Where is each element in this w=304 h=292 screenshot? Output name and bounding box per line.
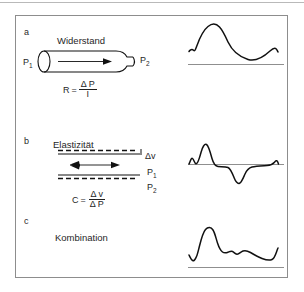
label-p2-panel-b: P2 (147, 182, 157, 194)
formula-c-eq: = (81, 195, 86, 205)
top-rule (0, 2, 304, 3)
figure-root: a b c Widerstand Elastizität Kombination… (0, 0, 304, 292)
caption-elastizitaet: Elastizität (53, 139, 94, 150)
formula-r-lhs: R (63, 85, 70, 95)
formula-r-denominator: İ (85, 90, 92, 99)
panel-letter-a: a (24, 27, 29, 37)
formula-c-fraction: Δ v Δ P (88, 190, 106, 210)
label-delta-v: Δv (145, 151, 156, 161)
formula-resistance: R = Δ P İ (63, 80, 97, 100)
label-p2-panel-a: P2 (140, 55, 150, 67)
label-p2-sub: 2 (146, 60, 150, 67)
label-p1-panel-b: P1 (147, 167, 157, 179)
label-p1b-sub: 1 (153, 172, 157, 179)
formula-r-fraction: Δ P İ (79, 80, 97, 100)
formula-compliance: C = Δ v Δ P (72, 190, 106, 210)
formula-c-denominator: Δ P (88, 200, 106, 209)
label-p1-sub: 1 (29, 62, 33, 69)
panel-letter-c: c (24, 216, 29, 226)
formula-r-eq: = (72, 85, 77, 95)
panel-letter-b: b (24, 136, 29, 146)
label-p1-panel-a: P1 (23, 57, 33, 69)
label-p2b-sub: 2 (153, 187, 157, 194)
caption-kombination: Kombination (55, 232, 108, 243)
caption-widerstand: Widerstand (57, 35, 105, 46)
formula-c-lhs: C (72, 195, 79, 205)
